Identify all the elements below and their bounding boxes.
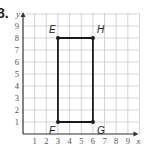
x-tick-label: 2	[44, 136, 48, 146]
y-axis-arrow-icon	[21, 12, 26, 17]
coordinate-grid: 123456789123456789xyEHGF	[0, 0, 144, 150]
x-tick-label: 6	[91, 136, 95, 146]
y-tick-label: 4	[15, 81, 20, 91]
point-label-G: G	[97, 125, 105, 136]
point-F	[56, 120, 60, 124]
y-tick-label: 8	[15, 33, 19, 43]
point-label-H: H	[97, 24, 105, 35]
x-tick-label: 1	[33, 136, 37, 146]
x-axis-label: x	[136, 136, 141, 146]
y-tick-label: 9	[15, 21, 19, 31]
y-tick-label: 1	[15, 117, 19, 127]
point-label-E: E	[49, 24, 56, 35]
y-axis-label: y	[15, 9, 20, 19]
x-tick-label: 5	[79, 136, 83, 146]
x-tick-label: 4	[67, 136, 72, 146]
rectangle-EFGH	[58, 38, 93, 122]
point-H	[91, 36, 95, 40]
point-E	[56, 36, 60, 40]
point-G	[91, 120, 95, 124]
x-tick-label: 3	[56, 136, 60, 146]
x-tick-label: 7	[102, 136, 106, 146]
point-label-F: F	[49, 125, 56, 136]
y-tick-label: 3	[15, 93, 19, 103]
x-tick-label: 9	[126, 136, 130, 146]
x-tick-label: 8	[114, 136, 118, 146]
y-tick-label: 7	[15, 45, 19, 55]
y-tick-label: 6	[15, 57, 19, 67]
y-tick-label: 2	[15, 105, 19, 115]
y-tick-label: 5	[15, 69, 19, 79]
